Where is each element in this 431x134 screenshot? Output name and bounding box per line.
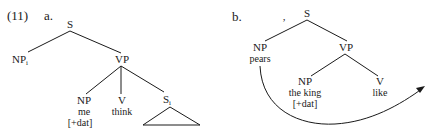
feature-dat: [+dat] <box>68 117 93 128</box>
stray-mark: , <box>283 11 286 22</box>
word-like: like <box>373 87 388 98</box>
triangle-si <box>143 107 200 125</box>
node-v: V <box>118 95 126 106</box>
branch-s-npi <box>28 31 70 52</box>
word-think: think <box>112 106 133 117</box>
node-np: NP <box>253 42 267 53</box>
branch-vp-np <box>311 54 345 76</box>
example-number: (11) <box>7 9 28 22</box>
index-subscript: i <box>169 99 171 107</box>
subexample-a-label: a. <box>44 9 53 22</box>
node-v: V <box>376 76 384 87</box>
branch-s-np <box>265 20 307 41</box>
subexample-b-label: b. <box>232 10 242 23</box>
tree-branches <box>0 0 431 134</box>
index-subscript: i <box>26 59 28 67</box>
node-np: NP <box>77 95 91 106</box>
branch-vp-v <box>345 54 378 76</box>
branch-vp-si <box>121 66 164 92</box>
node-vp: VP <box>115 54 129 65</box>
node-vp: VP <box>339 42 353 53</box>
word-the-king: the king <box>289 87 322 98</box>
node-npi-label: NP <box>12 53 26 65</box>
word-me: me <box>78 106 90 117</box>
feature-dat: [+dat] <box>293 98 318 109</box>
node-np: NP <box>298 76 312 87</box>
node-si: Si <box>163 94 171 109</box>
node-s: S <box>304 8 310 19</box>
node-npi: NPi <box>12 54 28 69</box>
branch-s-vp <box>70 31 121 53</box>
branch-vp-np <box>86 66 121 94</box>
movement-arrow <box>260 66 423 124</box>
word-pears: pears <box>249 53 270 64</box>
branch-s-vp <box>307 20 347 41</box>
node-s: S <box>67 19 73 30</box>
